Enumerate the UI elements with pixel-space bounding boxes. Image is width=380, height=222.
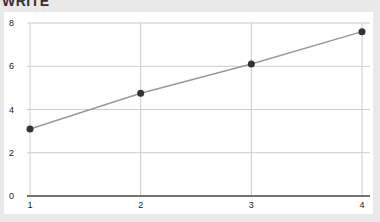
y-tick-label: 6 [9, 61, 14, 71]
y-tick-label: 0 [9, 191, 14, 201]
y-axis-ticks: 02468 [9, 18, 14, 201]
gridlines [27, 23, 370, 196]
data-point [137, 90, 144, 97]
y-tick-label: 8 [9, 18, 14, 28]
data-point [27, 125, 34, 132]
x-tick-label: 1 [27, 200, 32, 210]
series-polyline [30, 32, 362, 129]
y-tick-label: 2 [9, 148, 14, 158]
x-tick-label: 2 [138, 200, 143, 210]
series-line [27, 28, 366, 132]
x-tick-label: 4 [359, 200, 364, 210]
x-axis-ticks: 1234 [27, 200, 364, 210]
y-tick-label: 4 [9, 105, 14, 115]
line-chart: 02468 1234 [0, 0, 380, 222]
data-point [248, 61, 255, 68]
x-tick-label: 3 [249, 200, 254, 210]
data-point [359, 28, 366, 35]
